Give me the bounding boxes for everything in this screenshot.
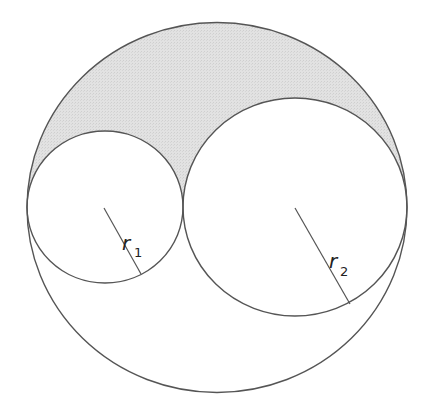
svg-text:1: 1 xyxy=(134,245,142,260)
svg-text:2: 2 xyxy=(340,264,348,279)
shaded-region xyxy=(27,23,407,393)
circles-diagram: r 1 r 2 xyxy=(0,0,427,416)
